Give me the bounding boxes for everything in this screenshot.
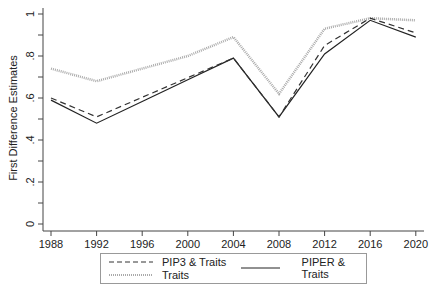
svg-text:1992: 1992 — [84, 238, 108, 250]
svg-text:.2: .2 — [24, 177, 36, 186]
series-traits — [51, 18, 416, 94]
svg-text:1: 1 — [24, 11, 36, 17]
svg-text:2000: 2000 — [176, 238, 200, 250]
legend: PIP3 & Traits PIPER & Traits Traits — [100, 253, 367, 284]
axes — [43, 8, 424, 231]
series-piper-traits — [51, 20, 416, 123]
svg-text:2012: 2012 — [312, 238, 336, 250]
svg-text:.6: .6 — [24, 93, 36, 102]
svg-text:0: 0 — [24, 221, 36, 227]
svg-text:.4: .4 — [24, 135, 36, 144]
svg-text:.8: .8 — [24, 51, 36, 60]
svg-text:1988: 1988 — [39, 238, 63, 250]
svg-text:2020: 2020 — [404, 238, 428, 250]
svg-text:1996: 1996 — [130, 238, 154, 250]
svg-text:2008: 2008 — [267, 238, 291, 250]
legend-item-piper: PIPER & Traits — [241, 256, 366, 280]
svg-text:2004: 2004 — [221, 238, 245, 250]
y-axis-ticks: 0.2.4.6.81 — [24, 11, 43, 227]
x-axis-ticks: 198819921996200020042008201220162020 — [39, 231, 428, 250]
legend-item-pip3: PIP3 & Traits — [109, 256, 226, 268]
series-pip3-traits — [51, 18, 416, 117]
y-axis-label: First Difference Estimates — [7, 55, 19, 181]
svg-text:2016: 2016 — [358, 238, 382, 250]
legend-item-traits: Traits — [109, 269, 189, 281]
series-lines — [51, 18, 416, 123]
